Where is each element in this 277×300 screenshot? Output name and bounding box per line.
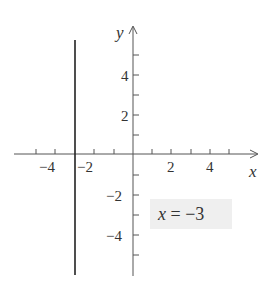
x-tick-label-neg4: −4	[39, 159, 55, 175]
y-axis-label: y	[114, 23, 124, 42]
x-axis-label: x	[248, 162, 257, 181]
x-tick-label-2: 2	[167, 159, 175, 175]
equation-label: x = −3	[157, 204, 204, 224]
y-tick-label-4: 4	[121, 68, 129, 84]
x-tick-label-4: 4	[206, 159, 214, 175]
y-tick-label-neg4: −4	[106, 228, 122, 244]
y-ticks	[133, 55, 139, 255]
coordinate-plane: y x −4 −2 2 4 4 2 −2 −4 x = −3	[0, 0, 277, 300]
y-tick-label-2: 2	[121, 108, 129, 124]
x-tick-label-neg2: −2	[77, 159, 93, 175]
y-tick-label-neg2: −2	[106, 188, 122, 204]
